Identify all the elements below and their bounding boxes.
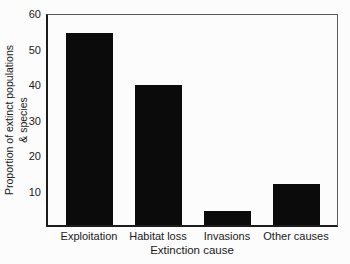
bar-chart-figure: Proportion of extinct populations & spec… — [0, 0, 350, 264]
x-axis-title: Extinction cause — [46, 244, 338, 257]
y-tick-label-10: 10 — [0, 185, 41, 199]
bar-habitat-loss — [135, 85, 182, 225]
x-tick-label-other-causes: Other causes — [263, 230, 328, 243]
bar-other-causes — [273, 184, 320, 225]
x-tick-label-habitat-loss: Habitat loss — [129, 230, 186, 243]
bar-exploitation — [66, 33, 113, 225]
y-tick-label-50: 50 — [0, 43, 41, 57]
x-tick-label-invasions: Invasions — [204, 230, 250, 243]
y-tick-label-40: 40 — [0, 78, 41, 92]
y-tick-label-60: 60 — [0, 7, 41, 21]
y-tick-label-30: 30 — [0, 114, 41, 128]
bar-invasions — [204, 211, 251, 225]
plot-area — [46, 14, 338, 227]
y-tick-label-20: 20 — [0, 149, 41, 163]
x-tick-label-exploitation: Exploitation — [61, 230, 118, 243]
